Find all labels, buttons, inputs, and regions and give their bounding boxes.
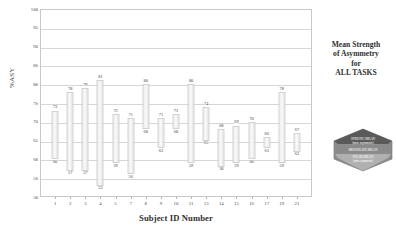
y-tick-mark xyxy=(36,47,38,48)
x-tick-label: 2 xyxy=(69,201,71,207)
x-tick-label: 16 xyxy=(249,201,254,207)
x-tick-label: 17 xyxy=(264,201,269,207)
y-tick-label: 90 xyxy=(2,44,38,49)
gridline xyxy=(41,142,311,143)
plot-area xyxy=(40,9,312,197)
gridline xyxy=(41,104,311,105)
gridline xyxy=(41,123,311,124)
x-tick-mark xyxy=(146,197,147,199)
y-tick-label: 95 xyxy=(2,25,38,30)
y-tick-mark xyxy=(36,178,38,179)
gridline xyxy=(41,29,311,30)
gridline xyxy=(41,85,311,86)
y-tick-mark xyxy=(36,28,38,29)
x-tick-mark xyxy=(221,197,222,199)
x-tick-mark xyxy=(85,197,86,199)
x-tick-label: 21 xyxy=(294,201,299,207)
y-tick-label: 75 xyxy=(2,101,38,106)
x-tick-mark xyxy=(70,197,71,199)
x-tick-mark xyxy=(252,197,253,199)
y-tick-mark xyxy=(36,9,38,10)
y-tick-mark xyxy=(36,122,38,123)
x-tick-label: 1 xyxy=(54,201,56,207)
legend-line-2: of Asymmetry xyxy=(318,49,394,58)
x-tick-label: 8 xyxy=(145,201,147,207)
x-tick-label: 4 xyxy=(99,201,101,207)
emblem-label-strong-sub: (more asymmetric) xyxy=(333,141,393,145)
y-tick-mark xyxy=(36,84,38,85)
x-tick-mark xyxy=(100,197,101,199)
y-tick-label: 80 xyxy=(2,82,38,87)
y-tick-label: 85 xyxy=(2,63,38,68)
gridline xyxy=(41,66,311,67)
y-tick-label: 50 xyxy=(2,195,38,200)
x-tick-mark xyxy=(282,197,283,199)
emblem-label-weak-sub: (more symmetric) xyxy=(333,159,393,163)
asymmetry-scale-emblem: STRONG MEAN (more asymmetric) MODERATE M… xyxy=(333,128,393,172)
y-tick-label: 55 xyxy=(2,176,38,181)
y-tick-mark xyxy=(36,103,38,104)
y-tick-mark xyxy=(36,141,38,142)
x-tick-label: 9 xyxy=(160,201,162,207)
x-tick-mark xyxy=(236,197,237,199)
gridline xyxy=(41,179,311,180)
y-tick-mark xyxy=(36,159,38,160)
x-tick-label: 19 xyxy=(279,201,284,207)
x-tick-label: 10 xyxy=(174,201,179,207)
x-tick-label: 5 xyxy=(114,201,116,207)
legend-title: Mean Strength of Asymmetry for ALL TASKS xyxy=(318,40,394,78)
x-tick-label: 3 xyxy=(84,201,86,207)
x-tick-label: 14 xyxy=(219,201,224,207)
x-tick-mark xyxy=(116,197,117,199)
gridline xyxy=(41,160,311,161)
x-tick-label: 11 xyxy=(189,201,194,207)
y-tick-mark xyxy=(36,197,38,198)
x-tick-mark xyxy=(131,197,132,199)
x-tick-label: 7 xyxy=(129,201,131,207)
y-tick-mark xyxy=(36,65,38,66)
x-tick-mark xyxy=(176,197,177,199)
x-tick-mark xyxy=(55,197,56,199)
legend-line-4: ALL TASKS xyxy=(318,68,394,77)
y-tick-label: 65 xyxy=(2,138,38,143)
legend-line-3: for xyxy=(318,59,394,68)
x-axis: 12345789101113141516171921 xyxy=(40,197,312,211)
x-tick-label: 15 xyxy=(234,201,239,207)
x-tick-mark xyxy=(161,197,162,199)
emblem-label-moderate: MODERATE MEAN xyxy=(333,148,393,152)
x-tick-mark xyxy=(267,197,268,199)
y-axis: 50556065707580859095100 xyxy=(0,9,38,197)
x-tick-label: 13 xyxy=(204,201,209,207)
y-tick-label: 60 xyxy=(2,157,38,162)
x-tick-mark xyxy=(191,197,192,199)
x-axis-title: Subject ID Number xyxy=(40,213,312,223)
x-tick-mark xyxy=(206,197,207,199)
asymmetry-range-chart: %ASY 50556065707580859095100 73607857795… xyxy=(0,0,396,239)
x-tick-mark xyxy=(297,197,298,199)
gridline xyxy=(41,48,311,49)
y-tick-label: 70 xyxy=(2,119,38,124)
y-tick-label: 100 xyxy=(2,7,38,12)
legend-line-1: Mean Strength xyxy=(318,40,394,49)
